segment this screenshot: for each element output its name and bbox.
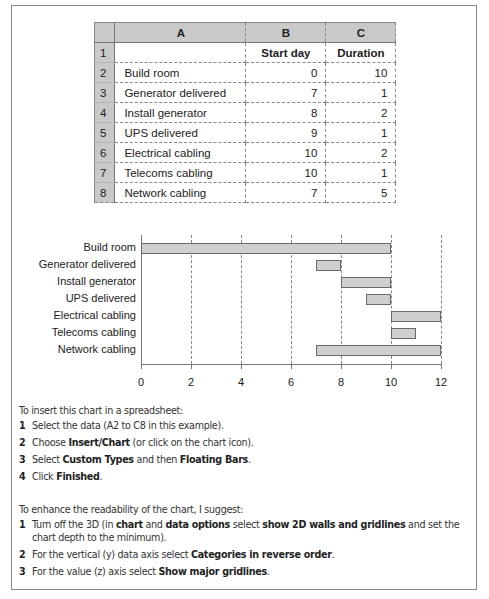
category-label: Electrical cabling bbox=[53, 309, 136, 321]
duration-cell[interactable]: 10 bbox=[326, 63, 396, 83]
step-emphasis: data options bbox=[165, 519, 230, 530]
task-cell[interactable]: Electrical cabling bbox=[115, 143, 246, 163]
table-row: 7 Telecoms cabling 10 1 bbox=[95, 163, 396, 183]
duration-cell[interactable]: 1 bbox=[326, 123, 396, 143]
gantt-bar bbox=[341, 277, 391, 288]
task-cell[interactable]: Install generator bbox=[115, 103, 246, 123]
step-number: 2 bbox=[19, 549, 25, 562]
gridline bbox=[441, 235, 442, 364]
start-cell[interactable]: 10 bbox=[246, 143, 326, 163]
table-row: 1 Start day Duration bbox=[95, 43, 396, 63]
insert-chart-instructions: To insert this chart in a spreadsheet: 1… bbox=[19, 405, 459, 488]
tick-label: 12 bbox=[426, 376, 456, 388]
instructions-intro: To insert this chart in a spreadsheet: bbox=[19, 405, 459, 416]
task-cell[interactable]: Build room bbox=[115, 63, 246, 83]
category-label: Network cabling bbox=[58, 343, 136, 355]
start-cell[interactable]: 7 bbox=[246, 183, 326, 203]
row-header[interactable]: 6 bbox=[95, 143, 115, 163]
step-number: 3 bbox=[19, 454, 25, 467]
row-header[interactable]: 3 bbox=[95, 83, 115, 103]
step-text: For the value (z) axis select bbox=[32, 566, 158, 577]
row-header[interactable]: 2 bbox=[95, 63, 115, 83]
step-emphasis: Floating Bars bbox=[180, 454, 248, 465]
category-label: Generator delivered bbox=[39, 258, 136, 270]
axis-tick bbox=[191, 364, 192, 369]
gantt-bar bbox=[391, 328, 416, 339]
duration-cell[interactable]: 1 bbox=[326, 83, 396, 103]
tick-label: 8 bbox=[326, 376, 356, 388]
step-number: 2 bbox=[19, 437, 25, 450]
plot-area: 024681012 bbox=[141, 235, 441, 364]
gantt-bar bbox=[391, 311, 441, 322]
table-row: 4 Install generator 8 2 bbox=[95, 103, 396, 123]
axis-tick bbox=[341, 364, 342, 369]
table-row: 3 Generator delivered 7 1 bbox=[95, 83, 396, 103]
duration-cell[interactable]: 5 bbox=[326, 183, 396, 203]
axis-tick bbox=[441, 364, 442, 369]
row-header[interactable]: 1 bbox=[95, 43, 115, 63]
column-header-a[interactable]: A bbox=[115, 23, 246, 43]
tick-label: 2 bbox=[176, 376, 206, 388]
axis-tick bbox=[141, 364, 142, 369]
row-header[interactable]: 7 bbox=[95, 163, 115, 183]
cell-b1[interactable]: Start day bbox=[246, 43, 326, 63]
cell-c1[interactable]: Duration bbox=[326, 43, 396, 63]
category-label: Telecoms cabling bbox=[52, 326, 136, 338]
axis-tick bbox=[291, 364, 292, 369]
step-emphasis: Insert/Chart bbox=[68, 437, 130, 448]
duration-cell[interactable]: 2 bbox=[326, 103, 396, 123]
gantt-bar bbox=[141, 243, 391, 254]
instruction-step: 1Turn off the 3D (in chart and data opti… bbox=[19, 519, 469, 545]
step-text: Turn off the 3D (in bbox=[32, 519, 116, 530]
step-text: . bbox=[100, 471, 103, 482]
tick-label: 6 bbox=[276, 376, 306, 388]
start-cell[interactable]: 10 bbox=[246, 163, 326, 183]
select-all-corner[interactable] bbox=[95, 23, 115, 43]
step-text: Choose bbox=[32, 437, 68, 448]
gantt-bar bbox=[316, 260, 341, 271]
step-text: Click bbox=[32, 471, 56, 482]
step-number: 4 bbox=[19, 471, 25, 484]
task-cell[interactable]: Network cabling bbox=[115, 183, 246, 203]
instructions-steps: 1Select the data (A2 to C8 in this examp… bbox=[19, 420, 459, 484]
step-emphasis: show 2D walls and gridlines bbox=[262, 519, 405, 530]
step-number: 1 bbox=[19, 519, 25, 532]
task-cell[interactable]: UPS delivered bbox=[115, 123, 246, 143]
step-emphasis: chart bbox=[116, 519, 143, 530]
instructions-intro: To enhance the readability of the chart,… bbox=[19, 504, 469, 515]
step-text: and bbox=[143, 519, 166, 530]
start-cell[interactable]: 9 bbox=[246, 123, 326, 143]
tick-label: 0 bbox=[126, 376, 156, 388]
category-label: UPS delivered bbox=[66, 292, 136, 304]
column-header-b[interactable]: B bbox=[246, 23, 326, 43]
step-text: (or click on the chart icon). bbox=[130, 437, 254, 448]
step-number: 3 bbox=[19, 566, 25, 579]
table-row: 8 Network cabling 7 5 bbox=[95, 183, 396, 203]
step-text: and then bbox=[134, 454, 180, 465]
gantt-bar bbox=[366, 294, 391, 305]
task-cell[interactable]: Generator delivered bbox=[115, 83, 246, 103]
row-header[interactable]: 8 bbox=[95, 183, 115, 203]
step-text: . bbox=[332, 549, 335, 560]
step-emphasis: Show major gridlines bbox=[158, 566, 266, 577]
table-row: 2 Build room 0 10 bbox=[95, 63, 396, 83]
cell-a1[interactable] bbox=[115, 43, 246, 63]
axis-tick bbox=[391, 364, 392, 369]
start-cell[interactable]: 7 bbox=[246, 83, 326, 103]
axis-tick bbox=[241, 364, 242, 369]
duration-cell[interactable]: 1 bbox=[326, 163, 396, 183]
duration-cell[interactable]: 2 bbox=[326, 143, 396, 163]
start-cell[interactable]: 8 bbox=[246, 103, 326, 123]
column-header-c[interactable]: C bbox=[326, 23, 396, 43]
row-header[interactable]: 5 bbox=[95, 123, 115, 143]
instruction-step: 3Select Custom Types and then Floating B… bbox=[19, 454, 459, 467]
readability-instructions: To enhance the readability of the chart,… bbox=[19, 504, 469, 583]
start-cell[interactable]: 0 bbox=[246, 63, 326, 83]
column-header-row: A B C bbox=[95, 23, 396, 43]
table-row: 5 UPS delivered 9 1 bbox=[95, 123, 396, 143]
instructions-steps: 1Turn off the 3D (in chart and data opti… bbox=[19, 519, 469, 579]
step-emphasis: Finished bbox=[56, 471, 99, 482]
task-cell[interactable]: Telecoms cabling bbox=[115, 163, 246, 183]
row-header[interactable]: 4 bbox=[95, 103, 115, 123]
step-text: select bbox=[230, 519, 262, 530]
